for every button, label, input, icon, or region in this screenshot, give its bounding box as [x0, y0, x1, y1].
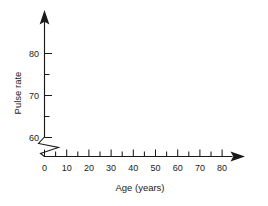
- x-axis-arrowhead: [231, 151, 246, 161]
- y-axis-group: [40, 10, 50, 137]
- x-tick-label-60: 60: [173, 163, 183, 173]
- y-major-ticks: [45, 54, 53, 138]
- x-major-ticks: [45, 150, 223, 157]
- y-axis-title: Pulse rate: [12, 72, 23, 115]
- x-tick-label-0: 0: [42, 163, 47, 173]
- x-tick-label-50: 50: [150, 163, 160, 173]
- x-tick-label-10: 10: [62, 163, 72, 173]
- y-tick-label-80: 80: [29, 49, 39, 59]
- x-tick-label-40: 40: [128, 163, 138, 173]
- x-tick-label-30: 30: [106, 163, 116, 173]
- y-tick-label-70: 70: [29, 91, 39, 101]
- x-axis-title: Age (years): [115, 182, 164, 193]
- chart-canvas: 80 70 60: [0, 0, 268, 206]
- y-tick-label-60: 60: [29, 133, 39, 143]
- x-tick-label-70: 70: [195, 163, 205, 173]
- x-tick-label-20: 20: [84, 163, 94, 173]
- pulse-rate-chart-figure: 80 70 60: [0, 0, 268, 206]
- x-tick-label-80: 80: [217, 163, 227, 173]
